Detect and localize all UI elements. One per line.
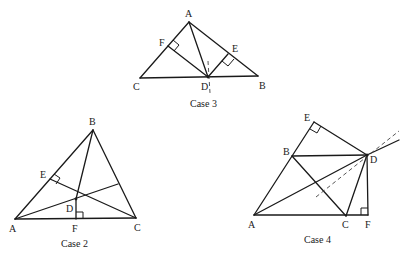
segment-ed — [314, 122, 367, 155]
label-d: D — [66, 203, 73, 214]
segment-bc — [292, 156, 346, 216]
figure-case-4: E B D A C F Case 4 — [248, 112, 399, 245]
point-d — [365, 153, 368, 156]
geometry-diagram: A F E C D B Case 3 B E D A F C Case 2 — [0, 0, 400, 260]
label-e: E — [40, 169, 46, 180]
label-e: E — [232, 43, 238, 54]
label-b: B — [283, 146, 290, 157]
point-d — [207, 76, 210, 79]
label-f: F — [365, 219, 371, 230]
label-d: D — [370, 154, 377, 165]
label-c: C — [133, 81, 140, 92]
caption-case-2: Case 2 — [61, 238, 88, 249]
label-f: F — [159, 37, 165, 48]
segment-ec — [50, 179, 136, 218]
dashed-bisector — [316, 131, 399, 197]
label-f: F — [72, 223, 78, 234]
right-angle-mark-e — [222, 59, 234, 66]
segment-ae — [254, 122, 314, 215]
caption-case-4: Case 4 — [304, 234, 331, 245]
figure-case-2: B E D A F C Case 2 — [9, 116, 141, 249]
right-angle-mark-f — [361, 208, 368, 215]
segment-cb — [140, 76, 258, 78]
caption-case-3: Case 3 — [190, 98, 217, 109]
segment-ac — [140, 22, 189, 78]
segment-bc — [93, 130, 136, 218]
segment-de — [208, 54, 228, 77]
label-d: D — [201, 81, 208, 92]
label-b: B — [259, 80, 266, 91]
label-b: B — [89, 116, 96, 127]
label-a: A — [9, 223, 17, 234]
label-a: A — [248, 219, 256, 230]
right-angle-mark-e — [310, 126, 321, 133]
label-e: E — [304, 112, 310, 123]
label-a: A — [185, 8, 193, 19]
figure-case-3: A F E C D B Case 3 — [133, 8, 266, 109]
segment-df — [367, 155, 368, 215]
segment-ab — [189, 22, 258, 76]
point-d — [75, 198, 78, 201]
segment-bd — [292, 155, 367, 156]
right-angle-mark-f — [173, 40, 179, 51]
label-c: C — [134, 222, 141, 233]
label-c: C — [342, 219, 349, 230]
